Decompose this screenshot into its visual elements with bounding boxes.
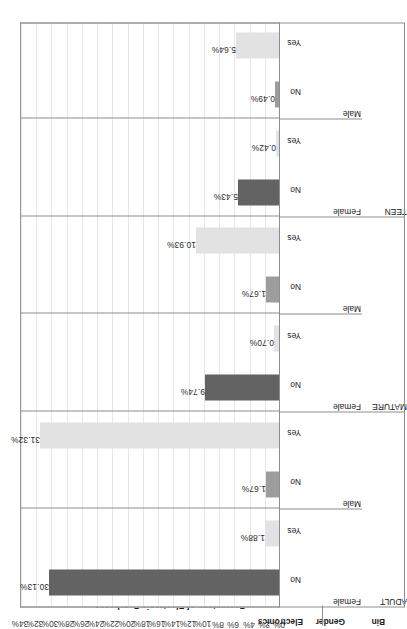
label-cell-divider	[280, 314, 322, 315]
y-axis-tick-label: 26%	[73, 619, 90, 629]
bar[interactable]	[266, 471, 279, 497]
y-axis-tick: 28%	[61, 609, 71, 629]
table-bottom-border	[404, 22, 405, 607]
bar-value-label: 9.74%	[181, 386, 205, 396]
bar-value-label: 0.70%	[249, 337, 273, 347]
electronics-label: Yes	[287, 427, 301, 437]
electronics-label: No	[290, 476, 301, 486]
gridline	[21, 23, 22, 606]
gender-label: Female	[333, 401, 361, 411]
bar[interactable]	[49, 569, 279, 595]
y-axis-tick-label: 24%	[88, 619, 105, 629]
gridline	[204, 23, 205, 606]
bin-label: MATURE	[372, 401, 407, 411]
gridline	[143, 23, 144, 606]
electronics-label: Yes	[287, 330, 301, 340]
electronics-label: No	[290, 379, 301, 389]
gender-label: Male	[343, 109, 361, 119]
gridline	[51, 23, 52, 606]
bar[interactable]	[196, 227, 279, 253]
y-axis-tick: 34%	[15, 609, 25, 629]
label-cell-divider	[280, 119, 322, 120]
y-axis-tick: 10%	[198, 609, 208, 629]
y-axis-tick: 26%	[76, 609, 86, 629]
y-axis-tick: 8%	[213, 609, 223, 629]
bar[interactable]	[205, 374, 279, 400]
bar-value-label: 1.88%	[240, 532, 264, 542]
bar-value-label: 30.13%	[20, 581, 49, 591]
y-axis-tick: 18%	[137, 609, 147, 629]
y-axis-tick-label: 22%	[103, 619, 120, 629]
y-axis-tick-label: 6%	[227, 619, 239, 629]
y-axis-tick: 4%	[244, 609, 254, 629]
group-separator	[21, 118, 279, 119]
gridline	[112, 23, 113, 606]
bar[interactable]	[40, 422, 279, 448]
bar[interactable]	[236, 32, 279, 58]
electronics-label: Yes	[287, 135, 301, 145]
label-cell-divider	[280, 216, 322, 217]
gender-label: Female	[333, 206, 361, 216]
column-header: Bin	[372, 616, 386, 626]
gridline	[97, 23, 98, 606]
y-axis-tick: 6%	[228, 609, 238, 629]
bar-value-label: 31.32%	[11, 434, 40, 444]
y-axis-tick-label: 20%	[118, 619, 135, 629]
bin-label: ADULT	[380, 596, 407, 606]
y-axis-tick-label: 34%	[12, 619, 29, 629]
y-axis-tick: 22%	[106, 609, 116, 629]
bin-group-divider	[322, 411, 404, 412]
electronics-label: Yes	[287, 525, 301, 535]
header-rule	[322, 605, 323, 625]
bar-value-label: 10.93%	[167, 239, 196, 249]
bar[interactable]	[238, 179, 279, 205]
gridline	[36, 23, 37, 606]
electronics-label: No	[290, 86, 301, 96]
y-axis-tick-label: 28%	[57, 619, 74, 629]
bar-value-label: 0.49%	[251, 93, 275, 103]
bar[interactable]	[266, 276, 279, 302]
y-axis-tick-label: 4%	[243, 619, 255, 629]
label-cell-divider	[280, 411, 322, 412]
gender-label: Male	[343, 304, 361, 314]
gender-label: Female	[333, 596, 361, 606]
y-axis-tick-label: 32%	[27, 619, 44, 629]
bar[interactable]	[265, 520, 279, 546]
group-separator	[21, 508, 279, 509]
electronics-label: Yes	[287, 37, 301, 47]
y-axis-tick-label: 12%	[179, 619, 196, 629]
y-axis-tick: 24%	[91, 609, 101, 629]
gridline	[234, 23, 235, 606]
electronics-label: No	[290, 574, 301, 584]
gridline	[67, 23, 68, 606]
y-axis-tick-label: 10%	[195, 619, 212, 629]
category-label-table: ElectronicsGenderBinNoYesNoYesNoYesNoYes…	[280, 22, 404, 607]
label-cell-divider	[280, 509, 322, 510]
group-separator	[21, 410, 279, 411]
gridline	[82, 23, 83, 606]
y-axis-tick-label: 8%	[212, 619, 224, 629]
bin-group-divider	[322, 216, 404, 217]
bar-value-label: 1.67%	[242, 288, 266, 298]
electronics-label: No	[290, 184, 301, 194]
y-axis-tick-label: 14%	[164, 619, 181, 629]
bar-value-label: 5.43%	[213, 191, 237, 201]
gender-label: Male	[343, 499, 361, 509]
gridline	[265, 23, 266, 606]
y-axis-tick-label: 18%	[134, 619, 151, 629]
y-axis-tick-label: 16%	[149, 619, 166, 629]
column-header: Gender	[316, 616, 345, 626]
group-separator	[21, 313, 279, 314]
y-axis-tick-label: 30%	[42, 619, 59, 629]
gender-divider	[322, 509, 362, 510]
column-header: Electronics	[258, 616, 303, 626]
gender-divider	[322, 119, 362, 120]
bar-value-label: 1.67%	[242, 483, 266, 493]
electronics-label: No	[290, 281, 301, 291]
gridline	[173, 23, 174, 606]
gridline	[158, 23, 159, 606]
plot-wrapper: 0%2%4%6%8%10%12%14%16%18%20%22%24%26%28%…	[20, 0, 404, 629]
plot-area: 30.13%1.88%1.67%31.32%9.74%0.70%1.67%10.…	[20, 22, 279, 607]
gridline	[189, 23, 190, 606]
